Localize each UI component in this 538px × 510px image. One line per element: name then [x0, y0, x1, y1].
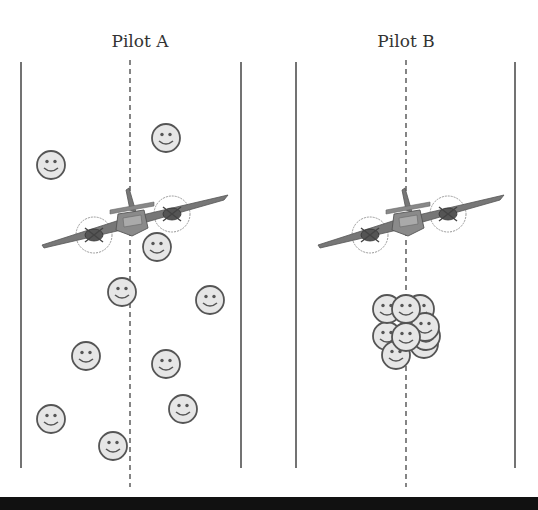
person-icons	[37, 124, 224, 460]
person-icon	[37, 151, 65, 179]
person-cluster	[373, 295, 440, 369]
airplane-icon	[42, 188, 228, 253]
person-icon	[152, 124, 180, 152]
airplane-icon	[318, 188, 504, 253]
bottom-bar	[0, 497, 538, 510]
pilot-diagram	[0, 0, 538, 497]
person-icon	[196, 286, 224, 314]
person-icon	[392, 323, 420, 351]
person-icon	[152, 350, 180, 378]
person-icon	[108, 278, 136, 306]
person-icon	[392, 295, 420, 323]
person-icon	[169, 395, 197, 423]
person-icon	[37, 405, 65, 433]
pilot-b-panel	[296, 60, 515, 487]
person-icon	[143, 233, 171, 261]
pilot-a-panel	[21, 60, 241, 487]
person-icon	[72, 342, 100, 370]
person-icon	[99, 432, 127, 460]
